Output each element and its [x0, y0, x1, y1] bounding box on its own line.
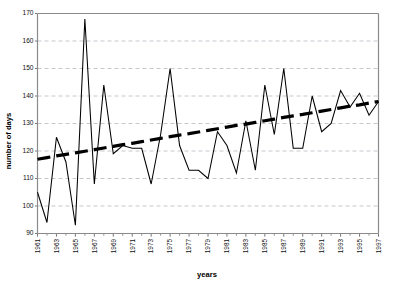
x-tick-label: 1989 — [299, 239, 306, 254]
y-axis-tick-labels: 90100110120130140150160170 — [22, 9, 33, 236]
x-tick-label: 1985 — [261, 239, 268, 254]
y-tick-label: 110 — [23, 174, 34, 181]
y-tick-label: 100 — [22, 202, 33, 209]
y-tick-label: 130 — [22, 119, 33, 126]
y-tick-label: 90 — [26, 229, 34, 236]
x-tick-label: 1963 — [53, 239, 60, 254]
y-axis-title: number of days — [4, 113, 13, 170]
y-tick-label: 120 — [22, 147, 33, 154]
x-tick-label: 1973 — [147, 239, 154, 254]
x-tick-label: 1993 — [337, 239, 344, 254]
x-tick-label: 1971 — [129, 239, 136, 254]
x-tick-label: 1961 — [34, 239, 41, 254]
x-tick-label: 1983 — [242, 239, 249, 254]
x-tick-label: 1977 — [185, 239, 192, 254]
x-tick-label: 1969 — [110, 239, 117, 254]
x-tick-label: 1991 — [318, 239, 325, 254]
x-tick-label: 1967 — [91, 239, 98, 254]
x-tick-label: 1987 — [280, 239, 287, 254]
x-tick-label: 1981 — [223, 239, 230, 254]
x-tick-label: 1975 — [166, 239, 173, 254]
y-tick-label: 140 — [22, 92, 33, 99]
x-axis-title: years — [197, 270, 217, 279]
x-tick-label: 1965 — [72, 239, 79, 254]
x-tick-label: 1995 — [356, 239, 363, 254]
x-tick-label: 1979 — [204, 239, 211, 254]
y-tick-label: 160 — [22, 37, 33, 44]
x-tick-label: 1997 — [375, 239, 382, 254]
y-tick-label: 170 — [22, 9, 33, 16]
y-tick-label: 150 — [22, 64, 33, 71]
chart-container: 90100110120130140150160170 1961196319651… — [0, 0, 400, 283]
line-chart: 90100110120130140150160170 1961196319651… — [0, 0, 400, 283]
